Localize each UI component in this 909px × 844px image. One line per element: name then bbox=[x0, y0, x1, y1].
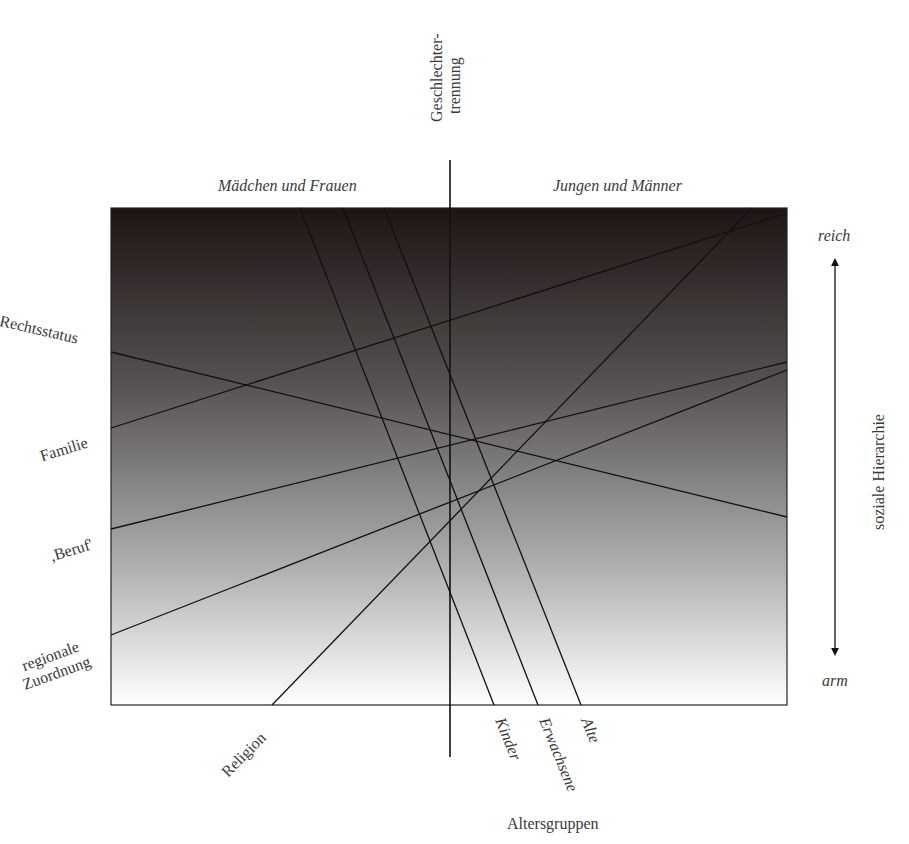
axis-title: soziale Hierarchie bbox=[870, 414, 888, 530]
divider-label-line2: trennung bbox=[446, 33, 464, 122]
axis-top-label: reich bbox=[818, 227, 850, 245]
group-label-male: Jungen und Männer bbox=[553, 177, 682, 195]
axis-bottom-label: arm bbox=[822, 672, 848, 690]
group-label-female: Mädchen und Frauen bbox=[218, 177, 357, 195]
divider-label: Geschlechter- trennung bbox=[428, 33, 464, 122]
x-axis-title: Altersgruppen bbox=[507, 815, 599, 833]
divider-label-line1: Geschlechter- bbox=[428, 33, 446, 122]
diagram-canvas bbox=[0, 0, 909, 844]
diagram-frame bbox=[111, 208, 787, 705]
